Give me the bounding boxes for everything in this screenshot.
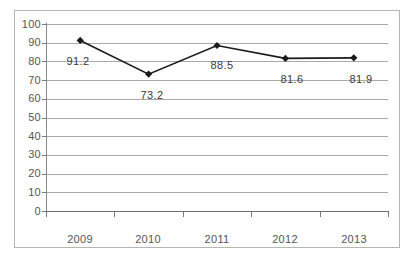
gridline-100 [46,24,388,25]
y-tick-label-60: 60 [28,93,41,104]
y-axis-tick-labels: 100 90 80 70 60 50 40 30 20 10 0 [8,0,41,260]
gridline-30 [46,155,388,156]
x-tick-label-2010: 2010 [135,233,161,245]
x-tick-mark-2 [183,212,184,217]
gridline-10 [46,192,388,193]
y-tick-label-30: 30 [28,149,41,160]
y-tick-label-90: 90 [28,37,41,48]
data-label-2013: 81.9 [349,73,372,85]
y-tick-label-0: 0 [35,206,41,217]
x-tick-label-2009: 2009 [67,233,93,245]
x-tick-mark-5 [388,212,389,217]
y-tick-label-70: 70 [28,75,41,86]
gridline-60 [46,99,388,100]
y-tick-label-10: 10 [28,187,41,198]
data-label-2010: 73.2 [140,89,163,101]
x-tick-mark-1 [114,212,115,217]
x-tick-mark-3 [251,212,252,217]
line-chart-figure: 100 90 80 70 60 50 40 30 20 10 0 2009 20… [0,0,417,260]
gridline-20 [46,174,388,175]
gridline-50 [46,118,388,119]
x-tick-label-2012: 2012 [272,233,298,245]
gridline-90 [46,43,388,44]
y-tick-label-20: 20 [28,168,41,179]
x-tick-label-2013: 2013 [341,233,367,245]
x-tick-mark-4 [320,212,321,217]
gridline-70 [46,80,388,81]
y-tick-label-100: 100 [22,19,41,30]
gridline-40 [46,136,388,137]
data-label-2012: 81.6 [280,73,303,85]
y-tick-label-40: 40 [28,131,41,142]
x-tick-mark-0 [46,212,47,217]
plot-area [46,24,388,211]
x-tick-label-2011: 2011 [205,233,230,245]
data-label-2011: 88.5 [210,59,233,71]
y-axis-line [46,23,47,212]
y-tick-label-80: 80 [28,56,41,67]
x-axis-line [46,211,389,212]
y-tick-label-50: 50 [28,112,41,123]
data-label-2009: 91.2 [66,55,89,67]
